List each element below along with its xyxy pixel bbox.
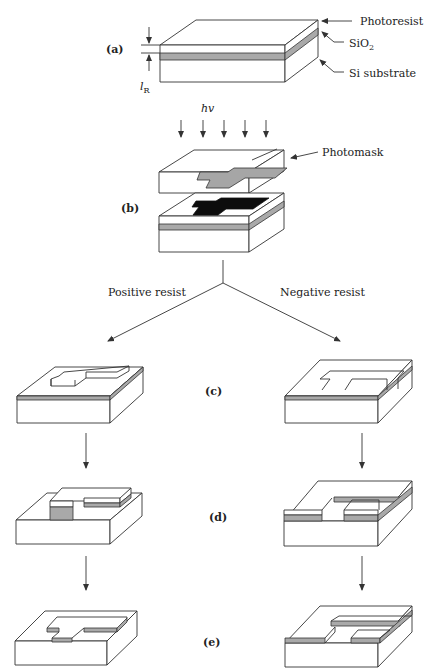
step-d-negative: [284, 481, 412, 546]
step-b-wafer: [159, 193, 284, 252]
step-label-d: (d): [209, 511, 227, 524]
substrate-label: Si substrate: [349, 67, 416, 80]
thickness-label: lR: [140, 80, 151, 95]
substrate-pointer: [320, 60, 344, 72]
photoresist-label: Photoresist: [360, 15, 424, 28]
photomask-pointer: [291, 152, 318, 158]
step-label-b: (b): [121, 202, 139, 215]
sio2-layer-front: [160, 53, 285, 60]
step-a-wafer: [141, 20, 352, 82]
step-label-e: (e): [203, 636, 220, 649]
sio2-pointer: [322, 32, 344, 42]
light-label: hv: [201, 102, 215, 115]
photolithography-diagram: Photoresist SiO2 Si substrate lR (a) hv …: [0, 0, 432, 672]
branch-arrows: [108, 260, 340, 341]
step-label-c: (c): [205, 385, 222, 398]
photomask: [159, 149, 287, 193]
sio2-label: SiO2: [349, 37, 374, 52]
light-arrows: [181, 120, 266, 137]
step-c-negative: [285, 360, 412, 423]
step-label-a: (a): [106, 43, 124, 56]
step-e-negative: [285, 606, 412, 667]
negative-resist-label: Negative resist: [280, 286, 365, 299]
photomask-label: Photomask: [322, 146, 384, 159]
step-c-positive: [17, 366, 143, 423]
wafer-front-face: [160, 45, 285, 82]
positive-resist-label: Positive resist: [108, 286, 186, 299]
step-d-positive: [16, 488, 142, 544]
step-e-positive: [15, 611, 137, 665]
